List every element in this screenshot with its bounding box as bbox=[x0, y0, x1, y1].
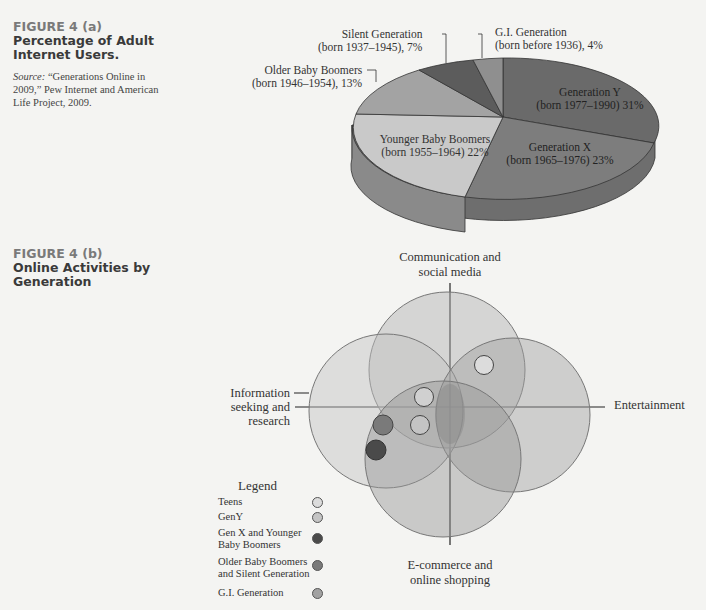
marker-older-boomers bbox=[373, 415, 393, 435]
venn-diagram bbox=[294, 283, 605, 545]
axis-label-ecommerce-line2: online shopping bbox=[385, 573, 515, 588]
legend-dot-teens bbox=[312, 497, 323, 508]
axis-label-information: Information seeking and research bbox=[218, 386, 290, 428]
marker-genx bbox=[366, 440, 386, 460]
label-silent-line2: (born 1937–1945), 7% bbox=[318, 41, 422, 54]
legend-dot-older-boomers bbox=[312, 560, 323, 571]
axis-label-communication-line1: Communication and bbox=[380, 250, 520, 265]
label-older-boomers-line1: Older Baby Boomers bbox=[252, 64, 362, 77]
label-silent-line1: Silent Generation bbox=[318, 28, 422, 41]
legend-item-genx: Gen X and Younger Baby Boomers bbox=[218, 527, 310, 551]
legend-dot-genx bbox=[312, 533, 323, 544]
legend-dot-geny bbox=[312, 512, 323, 523]
label-silent: Silent Generation (born 1937–1945), 7% bbox=[318, 28, 422, 54]
marker-teens bbox=[475, 356, 494, 375]
legend-item-older-boomers: Older Baby Boomers and Silent Generation bbox=[218, 556, 318, 580]
label-gen-x: Generation X (born 1965–1976) 23% bbox=[495, 141, 625, 167]
legend-item-teens: Teens bbox=[218, 496, 323, 508]
label-gen-y-line1: Generation Y bbox=[520, 86, 660, 99]
axis-label-information-line3: research bbox=[218, 414, 290, 428]
axis-label-communication: Communication and social media bbox=[380, 250, 520, 280]
leader-silent bbox=[442, 34, 446, 63]
label-gen-x-line1: Generation X bbox=[495, 141, 625, 154]
label-younger-boomers: Younger Baby Boomers (born 1955–1964) 22… bbox=[365, 133, 505, 159]
axis-label-ecommerce: E-commerce and online shopping bbox=[385, 558, 515, 588]
legend-title: Legend bbox=[238, 478, 277, 494]
axis-label-ecommerce-line1: E-commerce and bbox=[385, 558, 515, 573]
label-gen-y-line2: (born 1977–1990) 31% bbox=[520, 99, 660, 112]
leader-older-boomers bbox=[367, 70, 376, 82]
label-younger-boomers-line2: (born 1955–1964) 22% bbox=[365, 146, 505, 159]
axis-label-communication-line2: social media bbox=[380, 265, 520, 280]
label-gi-line1: G.I. Generation bbox=[495, 26, 603, 39]
leader-gi bbox=[478, 34, 482, 58]
axis-label-entertainment: Entertainment bbox=[614, 399, 685, 412]
label-gi: G.I. Generation (born before 1936), 4% bbox=[495, 26, 603, 52]
legend-item-geny: GenY bbox=[218, 511, 323, 523]
label-older-boomers: Older Baby Boomers (born 1946–1954), 13% bbox=[252, 64, 362, 90]
marker-geny-a bbox=[415, 388, 434, 407]
label-gen-x-line2: (born 1965–1976) 23% bbox=[495, 154, 625, 167]
label-younger-boomers-line1: Younger Baby Boomers bbox=[365, 133, 505, 146]
axis-label-information-line2: seeking and bbox=[218, 400, 290, 414]
venn-core-overlap bbox=[435, 384, 465, 444]
label-older-boomers-line2: (born 1946–1954), 13% bbox=[252, 77, 362, 90]
label-gi-line2: (born before 1936), 4% bbox=[495, 39, 603, 52]
axis-label-information-line1: Information bbox=[218, 386, 290, 400]
legend-dot-gi bbox=[312, 588, 323, 599]
legend-item-gi: G.I. Generation bbox=[218, 587, 323, 599]
label-gen-y: Generation Y (born 1977–1990) 31% bbox=[520, 86, 660, 112]
marker-geny-b bbox=[411, 416, 430, 435]
